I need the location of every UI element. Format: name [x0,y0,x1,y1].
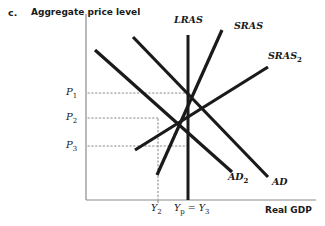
curve-ad [133,37,268,177]
x-tick-label-y2: Y2 [151,203,162,217]
curve-label-ad-base: AD [272,176,288,187]
y-tick-p3-base: P [66,139,73,150]
y-tick-p1-sub: 1 [73,92,77,100]
y-axis-title: Aggregate price level [31,7,93,18]
curve-label-sras-base: SRAS [234,20,263,31]
curve-label-ad: AD [272,177,288,188]
y-tick-p2-base: P [66,111,73,122]
curve-label-sras2-sub: 2 [297,55,302,64]
curve-label-lras: LRAS [174,15,203,26]
curve-label-ad2: AD2 [228,172,248,185]
panel-letter: c. [8,8,17,19]
curve-label-ad2-base: AD [228,171,244,182]
curve-label-lras-base: LRAS [174,14,203,25]
curve-label-sras: SRAS [234,21,263,32]
curve-label-ad2-sub: 2 [244,176,249,185]
x-tick-y3-sub: 3 [205,208,209,216]
x-axis-title: Real GDP [265,205,312,215]
ad-as-diagram-panel-c: c. Aggregate price level Real GDP P1 P2 … [0,0,325,226]
y-tick-label-p2: P2 [66,111,77,126]
chart-canvas [0,0,325,226]
x-tick-equals: = [185,202,199,213]
y-tick-label-p1: P1 [66,86,77,101]
curve-label-sras2: SRAS2 [268,51,302,64]
curve-label-sras2-base: SRAS [268,50,297,61]
y-tick-p2-sub: 2 [73,117,77,125]
y-tick-p1-base: P [66,86,73,97]
x-tick-label-yp-y3: Yp = Y3 [174,203,210,217]
y-tick-label-p3: P3 [66,139,77,154]
y-tick-p3-sub: 3 [73,145,77,153]
x-tick-y2-sub: 2 [157,208,161,216]
